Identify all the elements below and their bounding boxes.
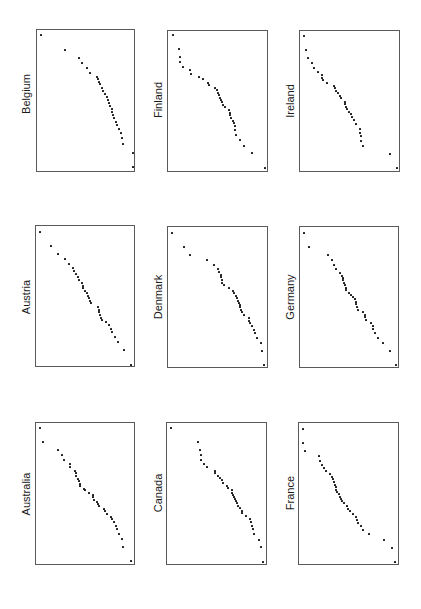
data-point [112,114,114,116]
data-point [199,449,201,451]
data-point [260,546,262,548]
data-point [68,263,70,265]
data-point [355,301,357,303]
data-point [75,475,77,477]
data-point [334,87,336,89]
data-point [189,69,191,71]
data-point [75,273,77,275]
data-point [202,78,204,80]
data-point [39,427,41,429]
data-point [122,143,124,145]
data-point [208,84,210,86]
data-point [317,71,319,73]
data-point [340,97,342,99]
data-point [102,90,104,92]
data-point [318,455,320,457]
data-point [368,533,370,535]
data-point [355,303,357,305]
data-point [206,259,208,261]
data-point [256,337,258,339]
data-point [233,122,235,124]
data-point [111,111,113,113]
data-point [239,507,241,509]
data-point [262,561,264,563]
data-point [351,116,353,118]
plot-panel-france [298,422,399,565]
data-point [75,472,77,474]
data-point [81,282,83,284]
data-point [72,267,74,269]
data-point [115,525,117,527]
data-point [234,129,236,131]
plot-panel-ireland [299,30,400,172]
data-point [130,560,132,562]
data-point [311,62,313,64]
data-point [362,311,364,313]
data-point [221,101,223,103]
data-point [343,282,345,284]
panel-label-austria: Austria [20,280,32,314]
data-point [355,123,357,125]
data-point [353,119,355,121]
data-point [198,76,200,78]
data-point [357,522,359,524]
data-point [362,529,364,531]
data-point [81,62,83,64]
plot-panel-germany [299,226,399,368]
data-point [355,516,357,518]
data-point [111,518,113,520]
data-point [241,311,243,313]
data-point [78,57,80,59]
data-point [89,72,91,74]
data-point [360,525,362,527]
data-point [396,167,398,169]
data-point [111,331,113,333]
data-point [118,128,120,130]
data-point [339,272,341,274]
data-point [61,454,63,456]
data-point [350,113,352,115]
data-point [302,442,304,444]
data-point [346,505,348,507]
data-point [313,67,315,69]
data-point [121,137,123,139]
data-point [221,282,223,284]
data-point [229,114,231,116]
data-point [356,519,358,521]
data-point [200,454,202,456]
panel-label-finland: Finland [152,82,164,118]
data-point [356,306,358,308]
data-point [302,428,304,430]
data-point [243,314,245,316]
data-point [383,539,385,541]
data-point [130,364,132,366]
data-point [93,499,95,501]
data-point [179,61,181,63]
data-point [304,450,306,452]
data-point [342,279,344,281]
data-point [338,493,340,495]
data-point [326,82,328,84]
data-point [251,152,253,154]
data-point [222,482,224,484]
data-point [359,132,361,134]
plot-panel-australia [35,422,135,565]
data-point [79,485,81,487]
data-point [108,102,110,104]
data-point [389,350,391,352]
data-point [104,93,106,95]
data-point [374,332,376,334]
data-point [232,290,234,292]
data-point [123,349,125,351]
data-point [220,276,222,278]
data-point [106,513,108,515]
data-point [333,481,335,483]
data-point [86,67,88,69]
data-point [245,515,247,517]
panel-label-belgium: Belgium [20,74,32,114]
data-point [248,317,250,319]
data-point [234,125,236,127]
data-point [249,322,251,324]
panel-label-france: France [284,476,296,510]
data-point [346,108,348,110]
